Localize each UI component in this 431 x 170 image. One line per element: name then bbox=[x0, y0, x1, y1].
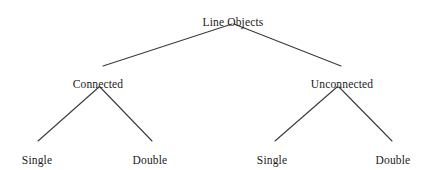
tree-node-unconnected: Unconnected bbox=[311, 78, 373, 91]
tree-node-connected-single: Single bbox=[22, 154, 52, 167]
edge-unconnected-double bbox=[339, 87, 392, 141]
tree-node-root: Line Objects bbox=[203, 16, 264, 29]
tree-node-connected-double: Double bbox=[133, 154, 168, 167]
edge-root-unconnected bbox=[234, 24, 341, 66]
edge-root-connected bbox=[103, 24, 232, 66]
tree-node-connected: Connected bbox=[73, 78, 124, 91]
edge-connected-single bbox=[38, 87, 99, 141]
edge-unconnected-single bbox=[275, 87, 337, 141]
tree-node-unconn-single: Single bbox=[257, 154, 287, 167]
edge-connected-double bbox=[100, 87, 152, 141]
tree-node-unconn-double: Double bbox=[376, 154, 411, 167]
tree-diagram: Line ObjectsConnectedUnconnectedSingleDo… bbox=[0, 0, 431, 170]
